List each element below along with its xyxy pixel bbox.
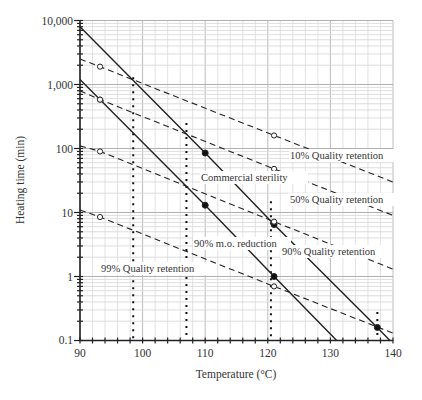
open-marker [97,149,102,154]
y-axis-title: Heating time (min) [14,136,27,224]
y-tick-1: 1 [67,271,73,283]
x-tick-100: 100 [134,347,152,359]
y-tick-1000: 1,000 [47,79,73,92]
x-axis-title: Temperature (°C) [196,368,277,381]
open-marker [97,64,102,69]
heating-time-chart: 10,000 1,000 100 10 1 0.1 90 100 110 120… [0,0,422,400]
open-marker [97,214,102,219]
x-tick-labels: 90 100 110 120 130 140 [74,347,402,359]
y-tick-labels: 10,000 1,000 100 10 1 0.1 [41,15,73,346]
label-qr10: 10% Quality retention [290,150,384,161]
x-tick-110: 110 [197,347,214,359]
x-tick-130: 130 [322,347,340,359]
x-tick-140: 140 [384,347,402,359]
label-commercial-sterility: Commercial sterility [201,172,288,183]
x-tick-90: 90 [74,347,86,359]
label-qr99: 99% Quality retention [101,263,195,274]
y-tick-10000: 10,000 [41,15,73,28]
filled-marker [271,274,277,280]
series-line-10-quality-retention [80,59,393,182]
x-tick-120: 120 [259,347,277,359]
y-tick-100: 100 [56,143,74,155]
y-tick-0-1: 0.1 [59,334,74,346]
filled-marker [202,150,208,156]
filled-marker [202,202,208,208]
label-mo-reduction: 90% m.o. reduction [194,238,278,249]
y-tick-10: 10 [62,207,74,219]
label-qr50: 50% Quality retention [290,194,384,205]
open-marker [271,219,276,224]
open-marker [271,284,276,289]
open-marker [271,166,276,171]
label-qr90: 90% Quality retention [282,246,376,257]
series-line-90-m-o-reduction [80,79,337,340]
open-marker [271,133,276,138]
filled-marker [374,324,380,330]
open-marker [97,97,102,102]
